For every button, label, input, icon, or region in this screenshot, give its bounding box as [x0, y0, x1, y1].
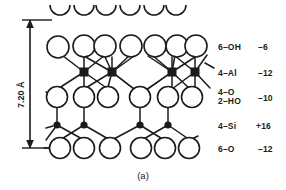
o-atom-row	[50, 138, 200, 159]
o-ho-atom-row	[47, 87, 203, 108]
atom-o-ho	[130, 87, 151, 108]
layer-label-species-al: 4–Al	[218, 68, 237, 78]
layer-label-species-ho: 2–HO	[218, 97, 241, 107]
oh-atom-row	[47, 35, 207, 58]
atom-o	[155, 138, 176, 159]
atom-o	[50, 138, 71, 159]
atom-o	[131, 138, 152, 159]
layer-label-species-o-bottom: 6–O	[218, 144, 235, 154]
atom-oh-partial	[50, 5, 70, 15]
atom-o	[74, 138, 95, 159]
atom-oh	[94, 35, 116, 57]
bond-stub	[46, 126, 53, 128]
atom-oh-partial	[74, 5, 94, 15]
atom-si	[53, 121, 60, 128]
atom-o-ho	[74, 87, 95, 108]
atom-oh-partial	[120, 5, 140, 15]
atom-oh-partial	[144, 5, 164, 15]
atom-oh	[120, 35, 142, 57]
atom-al	[80, 68, 89, 77]
layer-label-charge-al: –12	[258, 68, 273, 78]
atom-o	[179, 138, 200, 159]
atom-o-ho	[158, 87, 179, 108]
atom-si	[136, 121, 143, 128]
layer-label-charge-si: +16	[256, 121, 271, 131]
atom-si	[164, 121, 171, 128]
kaolinite-structure-diagram	[0, 0, 286, 190]
layer-label-species-oh: 6–OH	[218, 42, 241, 52]
atom-al	[191, 68, 200, 77]
atom-al	[108, 68, 117, 77]
figure-container: 7.20 Å 6–OH –6 4–Al –12 4–O 2–HO –10 4–S…	[0, 0, 286, 190]
atom-o-ho	[47, 87, 68, 108]
atom-oh-partial	[96, 5, 116, 15]
atom-oh	[185, 35, 207, 57]
atom-o	[100, 138, 121, 159]
atom-oh-partial	[166, 5, 186, 15]
figure-caption: (a)	[0, 170, 286, 181]
atom-oh	[73, 35, 95, 57]
bond-stub	[205, 63, 214, 68]
atom-o-ho	[98, 87, 119, 108]
layer-label-charge-o-bottom: –12	[258, 144, 273, 154]
bond-si-o	[112, 125, 140, 140]
dimension-annotation	[22, 19, 52, 149]
dimension-label: 7.20 Å	[16, 81, 26, 108]
si-atom-row	[53, 121, 171, 128]
layer-label-charge-o-ho: –10	[258, 93, 273, 103]
atom-o-ho	[182, 87, 203, 108]
layer-label-species-si: 4–Si	[218, 121, 236, 131]
atom-oh	[47, 36, 69, 58]
layer-label-charge-oh: –6	[258, 42, 268, 52]
atom-al	[168, 68, 177, 77]
atom-oh	[144, 35, 166, 57]
top-partial-oh-row	[50, 5, 186, 15]
al-atom-row	[80, 68, 200, 77]
atom-si	[80, 121, 87, 128]
